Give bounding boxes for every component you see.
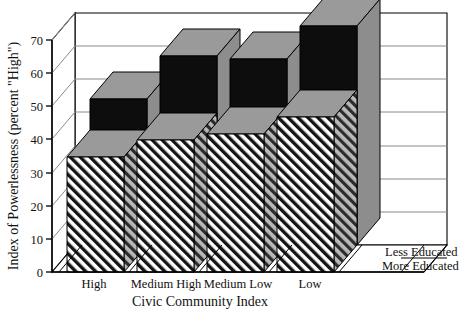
x-tick-label-low: Low	[299, 277, 322, 291]
y-tick-30: 30	[31, 167, 44, 181]
bar-chart-3d: 0 10 20 30 40 50 60 70 Index of Powerles…	[0, 0, 464, 318]
x-tick-label-medium-low: Medium Low	[204, 277, 272, 291]
y-tick-40: 40	[31, 133, 44, 147]
y-tick-10: 10	[31, 233, 44, 247]
x-axis-title: Civic Community Index	[132, 294, 268, 309]
y-tick-60: 60	[31, 67, 44, 81]
bar-more-educated-low	[277, 90, 357, 272]
legend: Less Educated More Educated	[382, 245, 459, 273]
y-axis: 0 10 20 30 40 50 60 70	[31, 34, 53, 280]
legend-label-more-educated: More Educated	[382, 259, 459, 273]
x-tick-label-high: High	[82, 277, 108, 291]
y-tick-20: 20	[31, 200, 44, 214]
y-tick-50: 50	[31, 100, 44, 114]
bar-more-educated-high	[67, 130, 147, 272]
y-axis-title: Index of Powerlessness (percent "High")	[6, 41, 22, 270]
bar-more-educated-medium-low	[207, 107, 287, 272]
x-tick-label-medium-high: Medium High	[131, 277, 202, 291]
legend-label-less-educated: Less Educated	[385, 245, 458, 259]
chart-figure: 0 10 20 30 40 50 60 70 Index of Powerles…	[0, 0, 464, 318]
y-tick-70: 70	[31, 34, 44, 48]
y-tick-0: 0	[37, 266, 43, 280]
